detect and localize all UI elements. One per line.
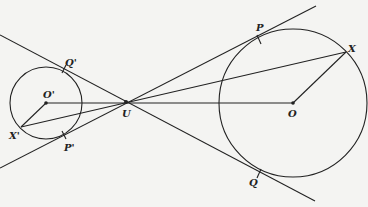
label-xprime: X' <box>8 130 20 141</box>
label-oprime: O' <box>43 89 55 100</box>
tangent-line-pp <box>0 6 316 168</box>
point-o <box>291 101 295 105</box>
point-u <box>124 100 128 104</box>
tangent-line-qq <box>0 35 315 201</box>
radius-ox <box>293 52 346 103</box>
label-x: X <box>347 43 357 54</box>
label-q: Q <box>249 177 258 188</box>
label-p: P <box>255 22 264 33</box>
radius-oprime-xprime <box>21 103 46 127</box>
label-u: U <box>122 108 132 119</box>
point-oprime <box>44 101 48 105</box>
label-o: O <box>288 108 297 119</box>
label-pprime: P' <box>63 142 75 153</box>
label-qprime: Q' <box>65 57 77 68</box>
diagram-canvas: P X O U Q Q' O' X' P' <box>0 0 368 207</box>
